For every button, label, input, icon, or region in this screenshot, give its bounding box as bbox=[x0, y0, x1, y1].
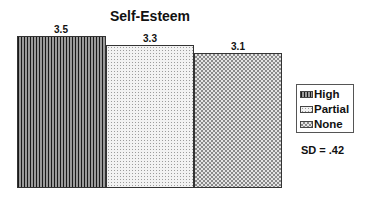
legend-swatch-high-icon bbox=[300, 91, 313, 98]
sd-annotation: SD = .42 bbox=[301, 144, 344, 156]
legend-item-partial: Partial bbox=[300, 102, 349, 116]
chart-title: Self-Esteem bbox=[0, 8, 300, 24]
bar-high bbox=[17, 36, 106, 188]
legend-swatch-none-icon bbox=[300, 121, 313, 128]
legend-item-high: High bbox=[300, 87, 340, 101]
legend-label-partial: Partial bbox=[314, 103, 349, 115]
legend: High Partial None bbox=[296, 84, 354, 133]
legend-item-none: None bbox=[300, 117, 343, 131]
legend-swatch-partial-icon bbox=[300, 106, 313, 113]
legend-label-none: None bbox=[314, 118, 343, 130]
bar-value-label-partial: 3.3 bbox=[106, 33, 194, 44]
bar-value-label-none: 3.1 bbox=[194, 41, 282, 52]
legend-label-high: High bbox=[314, 88, 340, 100]
bar-partial bbox=[106, 45, 194, 188]
bar-none bbox=[194, 53, 282, 188]
bar-value-label-high: 3.5 bbox=[17, 24, 105, 35]
